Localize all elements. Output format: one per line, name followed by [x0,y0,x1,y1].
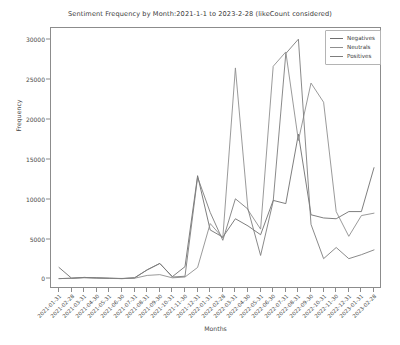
x-tick-mark [360,288,361,292]
legend-swatch-line-icon [330,38,343,39]
legend-label: Neutrals [347,43,371,52]
x-tick-mark [134,288,135,292]
legend-label: Positives [347,52,371,61]
series-line [59,39,374,278]
x-tick-mark [121,288,122,292]
x-tick-mark [209,288,210,292]
series-lines [51,28,382,289]
legend-label: Negatives [347,34,375,43]
series-line [59,134,374,278]
chart-legend: NegativesNeutralsPositives [325,30,381,65]
x-tick-mark [108,288,109,292]
x-axis: 2021-01-312021-02-282021-03-312021-04-30… [50,288,381,328]
x-tick-mark [260,288,261,292]
legend-item: Positives [330,52,375,61]
plot-area [50,27,381,288]
x-tick-mark [222,288,223,292]
series-line [59,52,374,279]
x-tick-mark [184,288,185,292]
chart-figure: Sentiment Frequency by Month:2021-1-1 to… [0,0,400,345]
legend-item: Negatives [330,34,375,43]
x-tick-mark [71,288,72,292]
x-tick-mark [335,288,336,292]
y-tick-label: 5000 [30,235,45,242]
x-tick-mark [373,288,374,292]
x-tick-mark [197,288,198,292]
x-tick-mark [310,288,311,292]
x-tick-mark [171,288,172,292]
x-axis-label: Months [50,325,381,332]
y-axis: 050001000015000200002500030000 [0,27,50,288]
x-tick-mark [272,288,273,292]
y-tick-label: 15000 [26,155,45,162]
legend-swatch-line-icon [330,47,343,48]
x-tick-mark [285,288,286,292]
x-tick-mark [323,288,324,292]
x-tick-mark [58,288,59,292]
chart-title: Sentiment Frequency by Month:2021-1-1 to… [0,10,400,18]
y-tick-label: 30000 [26,35,45,42]
x-tick-mark [234,288,235,292]
x-tick-mark [96,288,97,292]
y-axis-label: Frequency [15,71,22,161]
x-tick-mark [83,288,84,292]
y-tick-label: 20000 [26,115,45,122]
y-tick-label: 0 [41,275,45,282]
legend-swatch-line-icon [330,56,343,57]
x-tick-mark [146,288,147,292]
y-tick-label: 25000 [26,75,45,82]
x-tick-mark [247,288,248,292]
x-tick-mark [297,288,298,292]
y-tick-label: 10000 [26,195,45,202]
x-tick-mark [348,288,349,292]
legend-item: Neutrals [330,43,375,52]
x-tick-mark [159,288,160,292]
